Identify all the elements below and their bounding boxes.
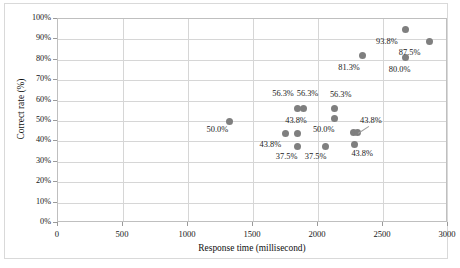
y-axis-tick-label: 30% [36,157,51,165]
data-point-label: 43.8% [360,117,382,126]
data-point-label: 81.3% [338,64,360,73]
data-point-label: 37.5% [276,153,298,162]
data-point-label: 43.8% [260,141,282,150]
data-point-label: 93.8% [376,38,398,47]
y-axis-tick-mark [53,181,57,182]
y-axis-tick-mark [53,140,57,141]
plot-area: 50.0%43.8%56.3%43.8%37.5%56.3%37.5%56.3%… [57,18,447,222]
gridline-horizontal [58,162,446,163]
data-point-marker [402,26,409,33]
data-point-marker [282,130,289,137]
gridline-horizontal [58,60,446,61]
data-point-label: 56.3% [272,90,294,99]
x-axis-tick-mark [317,222,318,226]
y-axis-tick-mark [53,100,57,101]
gridline-vertical [253,19,254,221]
data-point-label: 56.3% [297,90,319,99]
gridline-vertical [318,19,319,221]
x-axis-tick-mark [252,222,253,226]
gridline-vertical [188,19,189,221]
data-point-marker [331,105,338,112]
x-axis-tick-label: 1000 [162,230,212,239]
data-point-marker [359,52,366,59]
y-axis-tick-mark [53,120,57,121]
gridline-horizontal [58,121,446,122]
x-axis-tick-mark [57,222,58,226]
data-point-label: 87.5% [399,49,421,58]
y-axis-tick-label: 10% [36,198,51,206]
gridline-vertical [123,19,124,221]
data-point-marker [294,143,301,150]
data-point-marker [300,105,307,112]
y-axis-tick-label: 20% [36,177,51,185]
x-axis-tick-label: 0 [32,230,82,239]
x-axis-tick-label: 3000 [422,230,460,239]
y-axis-tick-mark [53,38,57,39]
y-axis-tick-label: 80% [36,55,51,63]
y-axis-tick-mark [53,202,57,203]
y-axis-tick-label: 50% [36,116,51,124]
y-axis-tick-label: 100% [32,14,51,22]
gridline-horizontal [58,203,446,204]
label-leader-line [358,126,370,134]
gridline-horizontal [58,141,446,142]
y-axis-tick-mark [53,18,57,19]
data-point-label: 50.0% [313,126,335,135]
data-point-marker [322,143,329,150]
data-point-marker [226,118,233,125]
y-axis-tick-label: 70% [36,75,51,83]
x-axis-tick-label: 1500 [227,230,277,239]
data-point-marker [426,38,433,45]
data-point-label: 43.8% [285,117,307,126]
y-axis-tick-mark [53,79,57,80]
data-point-marker [294,130,301,137]
gridline-vertical [383,19,384,221]
y-axis-tick-mark [53,161,57,162]
y-axis-tick-mark [53,59,57,60]
data-point-label: 37.5% [305,153,327,162]
x-axis-tick-label: 2000 [292,230,342,239]
x-axis-tick-mark [187,222,188,226]
gridline-horizontal [58,80,446,81]
y-axis-tick-label: 40% [36,136,51,144]
x-axis-tick-mark [122,222,123,226]
x-axis-title: Response time (millisecond) [57,243,447,253]
x-axis-tick-label: 500 [97,230,147,239]
data-point-label: 56.3% [330,91,352,100]
x-axis-tick-mark [447,222,448,226]
gridline-horizontal [58,101,446,102]
data-point-label: 43.8% [351,150,373,159]
y-axis-tick-label: 0% [40,218,51,226]
data-point-marker [351,141,358,148]
y-axis-title: Correct rate (%) [16,44,26,174]
x-axis-tick-mark [382,222,383,226]
gridline-horizontal [58,182,446,183]
y-axis-tick-label: 60% [36,96,51,104]
data-point-label: 50.0% [207,126,229,135]
x-axis-tick-label: 2500 [357,230,407,239]
data-point-label: 80.0% [389,66,411,75]
y-axis-tick-label: 90% [36,34,51,42]
